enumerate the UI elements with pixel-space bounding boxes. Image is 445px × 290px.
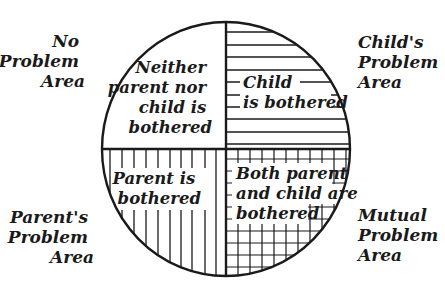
label-childs-problem-area: Child's Problem Area (356, 32, 444, 92)
quadrant-no-problem-text: Neither parent nor child is bothered (108, 58, 213, 137)
quadrant-parent-text: Parent is bothered (111, 169, 201, 208)
quadrant-child-text: Child is bothered (243, 73, 348, 112)
quadrant-mutual-text: Both parent and child are bothered (235, 164, 363, 223)
label-parents-problem-area: Parent's Problem Area (7, 207, 94, 267)
problem-ownership-diagram: Neither parent nor child is bothered Chi… (0, 0, 445, 290)
label-no-problem-area: No Problem Area (0, 31, 85, 91)
label-mutual-problem-area: Mutual Problem Area (356, 205, 444, 265)
